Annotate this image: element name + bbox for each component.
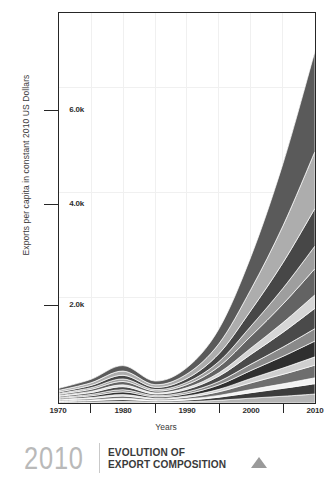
footer-title-line1: EVOLUTION OF [108, 446, 226, 459]
x-tick-label-1980: 1980 [103, 406, 143, 415]
y-tick-label-6k: 6.0k [44, 105, 84, 114]
x-minor-tick-1985 [155, 404, 156, 413]
y-axis-title: Exports per capita in constant 2010 US D… [21, 45, 31, 285]
footer-year: 2010 [24, 443, 84, 474]
chart-container: Exports per capita in constant 2010 US D… [0, 0, 332, 432]
y-tick-label-2k: 2.0k [44, 300, 84, 309]
triangle-up-icon [251, 457, 267, 468]
stacked-areas [59, 13, 315, 403]
x-tick-label-2000: 2000 [231, 406, 271, 415]
chart-page: Exports per capita in constant 2010 US D… [0, 0, 332, 477]
x-minor-tick-1975 [90, 404, 91, 413]
footer-title-line2: EXPORT COMPOSITION [108, 458, 226, 471]
plot-area [58, 12, 316, 404]
x-axis-title: Years [0, 422, 332, 432]
x-tick-label-1970: 1970 [38, 406, 78, 415]
x-minor-tick-1995 [219, 404, 220, 413]
footer-divider [99, 443, 100, 473]
footer-title: EVOLUTION OF EXPORT COMPOSITION [108, 446, 236, 471]
y-tick-label-4k: 4.0k [44, 199, 84, 208]
footer-caption: 2010 EVOLUTION OF EXPORT COMPOSITION [24, 440, 324, 476]
x-tick-label-1990: 1990 [167, 406, 207, 415]
x-minor-tick-2005 [283, 404, 284, 413]
x-tick-label-2010: 2010 [295, 406, 332, 415]
